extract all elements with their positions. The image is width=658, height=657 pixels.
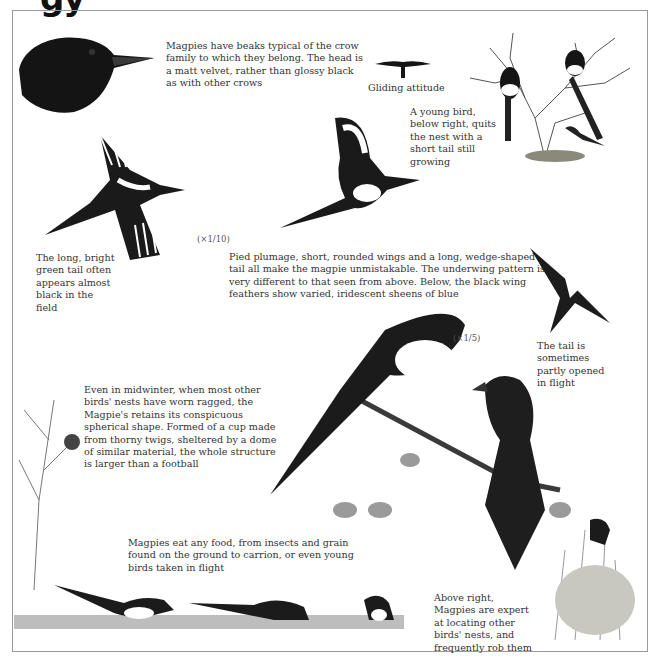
caption-beak: Magpies have beaks typical of the crow f… — [166, 40, 366, 90]
caption-nest-robbing: Above right, Magpies are expert at locat… — [434, 592, 534, 654]
nest-robbing-illustration — [545, 490, 640, 640]
magpie-head-illustration — [14, 30, 159, 120]
caption-tail-green: The long, bright green tail often appear… — [36, 252, 116, 314]
caption-gliding: Gliding attitude — [368, 82, 445, 94]
scale-perched: (×1/5) — [453, 333, 480, 343]
caption-pied-plumage: Pied plumage, short, rounded wings and a… — [229, 251, 549, 301]
ground-feeding-illustration — [14, 575, 404, 635]
caption-nest: Even in midwinter, when most other birds… — [84, 384, 279, 471]
caption-food: Magpies eat any food, from insects and g… — [128, 537, 368, 574]
flight-upperwing-illustration — [275, 108, 425, 233]
gliding-silhouette-icon — [375, 58, 431, 80]
spherical-nest-illustration — [14, 380, 89, 590]
flight-underwing-illustration — [40, 125, 200, 265]
scale-flight: (×1/10) — [197, 234, 230, 244]
